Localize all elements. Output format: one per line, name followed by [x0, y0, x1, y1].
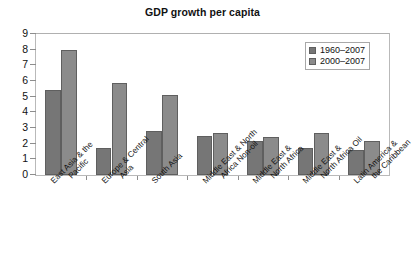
- legend-item: 1960–2007: [309, 45, 365, 56]
- chart-title: GDP growth per capita: [0, 6, 405, 18]
- x-axis-category-labels: East Asia & thePacificEurope & CentralAs…: [0, 176, 405, 257]
- legend-label: 2000–2007: [320, 56, 365, 67]
- y-tick-label: 7: [22, 59, 28, 69]
- chart-legend: 1960–2007 2000–2007: [305, 42, 370, 70]
- y-tick-label: 6: [22, 75, 28, 85]
- bar: [45, 90, 61, 175]
- y-axis-labels: 0123456789: [6, 33, 28, 176]
- y-tick-label: 8: [22, 44, 28, 54]
- legend-label: 1960–2007: [320, 45, 365, 56]
- y-tick-label: 2: [22, 138, 28, 148]
- legend-swatch-icon: [309, 58, 316, 65]
- legend-swatch-icon: [309, 47, 316, 54]
- y-tick-label: 1: [22, 153, 28, 163]
- legend-item: 2000–2007: [309, 56, 365, 67]
- y-tick-label: 5: [22, 91, 28, 101]
- y-tick-label: 4: [22, 106, 28, 116]
- y-tick-label: 3: [22, 122, 28, 132]
- y-tick-label: 9: [22, 28, 28, 38]
